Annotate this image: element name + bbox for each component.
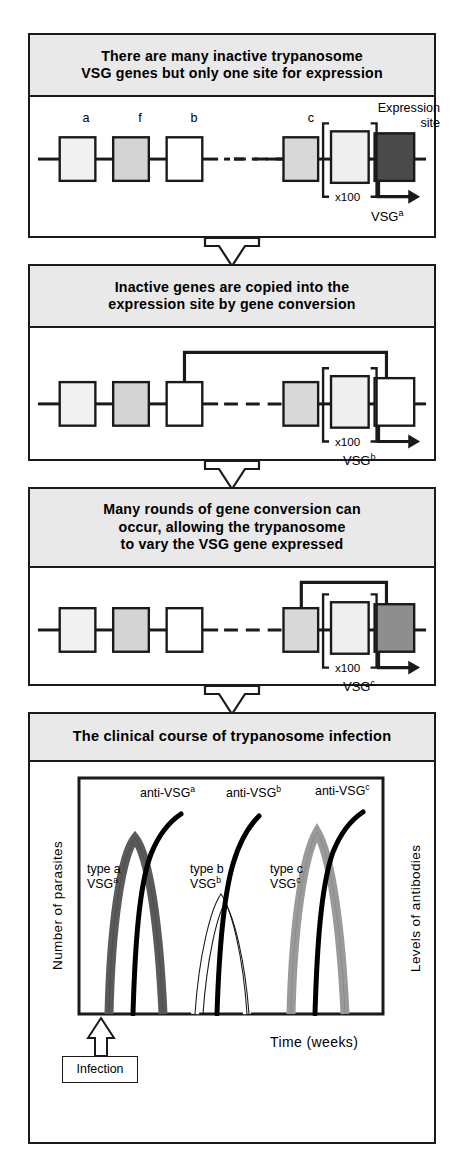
panel-4-title-text: The clinical course of trypanosome infec… bbox=[73, 728, 392, 746]
gene-label-c: c bbox=[293, 111, 329, 125]
vsg-product-label-3: VSGc bbox=[343, 679, 375, 694]
y-axis-label-right: Levels of antibodies bbox=[408, 845, 423, 972]
repeat-count-label-3: x100 bbox=[335, 661, 360, 674]
vsg-product-text-3: VSG bbox=[343, 679, 370, 694]
repeat-count-label-1: x100 bbox=[335, 190, 360, 203]
chart-area: Number of parasites Levels of antibodies bbox=[30, 762, 434, 1142]
infection-callout: Infection bbox=[62, 1056, 138, 1083]
panel-3-title: Many rounds of gene conversion can occur… bbox=[30, 489, 434, 568]
anti-vsg-a-sup: a bbox=[190, 784, 195, 794]
panel-2-body: x100 bbox=[30, 328, 434, 459]
infection-label: Infection bbox=[77, 1062, 124, 1076]
panel-1-title-line-2: VSG genes but only one site for expressi… bbox=[81, 65, 383, 81]
panel-3-title-line-2: occur, allowing the trypanosome bbox=[119, 519, 346, 535]
gene-label-a: a bbox=[68, 111, 104, 125]
repeat-count-label-2: x100 bbox=[335, 435, 360, 448]
panel-2-title-line-2: expression site by gene conversion bbox=[108, 296, 355, 312]
anti-vsg-a-text: anti-VSG bbox=[140, 786, 190, 800]
gene-map-2 bbox=[30, 328, 434, 459]
gene-label-f: f bbox=[122, 111, 158, 125]
type-b-line-2: VSG bbox=[190, 877, 216, 891]
anti-vsg-b-text: anti-VSG bbox=[226, 786, 276, 800]
gene-label-b: b bbox=[176, 111, 212, 125]
panel-clinical-course: The clinical course of trypanosome infec… bbox=[28, 712, 436, 1144]
anti-vsg-b-sup: b bbox=[276, 784, 281, 794]
vsg-product-label-2b: VSGb bbox=[343, 453, 376, 468]
curve-label-anti-vsg-b: anti-VSGb bbox=[226, 786, 281, 801]
panel-3-title-line-3: to vary the VSG gene expressed bbox=[121, 536, 344, 552]
panel-inactive-genes: There are many inactive trypanosome VSG … bbox=[28, 33, 436, 238]
curve-label-type-a: type a VSGa bbox=[87, 862, 121, 891]
vsg-product-sup-2: b bbox=[370, 452, 375, 462]
type-c-line-2: VSG bbox=[270, 877, 296, 891]
type-b-sup: b bbox=[216, 874, 221, 884]
y-axis-label-left: Number of parasites bbox=[50, 841, 65, 970]
panel-2-title: Inactive genes are copied into the expre… bbox=[30, 266, 434, 328]
anti-vsg-c-text: anti-VSG bbox=[315, 784, 365, 798]
panel-4-title: The clinical course of trypanosome infec… bbox=[30, 714, 434, 762]
panel-2-title-line-1: Inactive genes are copied into the bbox=[115, 279, 350, 295]
panel-many-rounds: Many rounds of gene conversion can occur… bbox=[28, 487, 436, 686]
curve-label-type-c: type c VSGc bbox=[270, 862, 303, 891]
type-a-sup: a bbox=[113, 874, 118, 884]
curve-label-anti-vsg-a: anti-VSGa bbox=[140, 786, 195, 801]
vsg-product-text-2: VSG bbox=[343, 453, 370, 468]
vsg-product-label-1: VSGa bbox=[371, 209, 404, 224]
panel-1-body: Expression site bbox=[30, 97, 434, 236]
gene-map-3 bbox=[30, 568, 434, 684]
anti-vsg-c-sup: c bbox=[365, 782, 369, 792]
vsg-product-sup-1: a bbox=[398, 208, 403, 218]
infection-arrow-icon bbox=[84, 1016, 118, 1058]
panel-3-title-line-1: Many rounds of gene conversion can bbox=[103, 501, 361, 517]
type-a-line-2: VSG bbox=[87, 877, 113, 891]
panel-gene-conversion: Inactive genes are copied into the expre… bbox=[28, 264, 436, 461]
figure-root: There are many inactive trypanosome VSG … bbox=[0, 0, 464, 1174]
panel-1-title: There are many inactive trypanosome VSG … bbox=[30, 35, 434, 97]
curve-label-anti-vsg-c: anti-VSGc bbox=[315, 784, 370, 799]
panel-1-title-line-1: There are many inactive trypanosome bbox=[101, 48, 363, 64]
panel-3-body: x100 bbox=[30, 568, 434, 684]
x-axis-label: Time (weeks) bbox=[270, 1034, 358, 1050]
vsg-product-sup-3: c bbox=[370, 678, 375, 688]
chart-plot bbox=[77, 776, 385, 1016]
type-c-sup: c bbox=[296, 874, 300, 884]
vsg-product-text-1: VSG bbox=[371, 209, 398, 224]
curve-label-type-b: type b VSGb bbox=[190, 862, 224, 891]
